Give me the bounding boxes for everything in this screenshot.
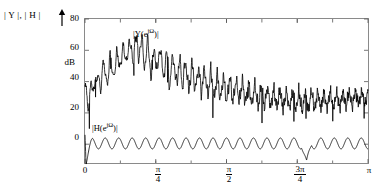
series-line-y-spectrum <box>85 34 368 128</box>
plot-area <box>0 0 384 193</box>
plot-frame <box>85 19 369 164</box>
figure-container: | Y |, | H | 80 60 dB 40 20 0 0 π 4 π 2 … <box>0 0 384 193</box>
axis-ticks <box>85 19 368 163</box>
